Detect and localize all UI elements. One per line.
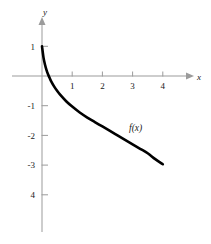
- y-axis-label: y: [42, 7, 47, 17]
- function-curve: [42, 46, 163, 164]
- y-tick-label: -3: [28, 160, 36, 170]
- plot-area: 1234 1-1-2-34 x y f(x): [0, 0, 211, 244]
- y-tick-label: 4: [31, 190, 36, 200]
- curve-annotations: f(x): [129, 123, 142, 134]
- x-tick-label: 1: [70, 81, 75, 91]
- y-axis-tick-labels: 1-1-2-34: [28, 42, 36, 201]
- x-tick-label: 2: [100, 81, 105, 91]
- x-tick-label: 3: [130, 81, 135, 91]
- x-axis-arrow-icon: [186, 73, 194, 80]
- function-graph-figure: 1234 1-1-2-34 x y f(x): [0, 0, 211, 244]
- y-axis-arrow-icon: [39, 17, 46, 25]
- x-tick-label: 4: [161, 81, 166, 91]
- x-axis-label: x: [196, 72, 201, 82]
- y-tick-label: -1: [28, 101, 36, 111]
- y-tick-label: 1: [31, 42, 36, 52]
- x-axis-tick-labels: 1234: [70, 81, 166, 91]
- curve-label: f(x): [129, 123, 142, 134]
- y-tick-label: -2: [28, 131, 36, 141]
